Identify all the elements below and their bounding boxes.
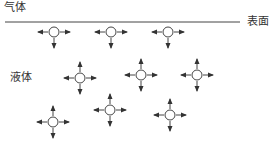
gas-label: 气体 xyxy=(4,2,26,14)
molecule-circle xyxy=(163,27,173,37)
molecule-circle xyxy=(165,110,175,120)
molecule-circle xyxy=(48,117,58,127)
molecule-circle xyxy=(105,105,115,115)
molecule-surface xyxy=(38,27,70,48)
molecule-bulk xyxy=(37,106,69,138)
molecule-bulk xyxy=(125,59,157,91)
molecule-circle xyxy=(49,27,59,37)
molecule-bulk xyxy=(154,99,186,131)
molecule-circle xyxy=(106,27,116,37)
molecule-surface xyxy=(152,27,184,48)
liquid-label: 液体 xyxy=(10,72,32,84)
molecule-surface xyxy=(95,27,127,48)
molecule-circle xyxy=(136,70,146,80)
surface-label: 表面 xyxy=(247,16,269,28)
molecule-circle xyxy=(192,70,202,80)
molecule-circle xyxy=(75,73,85,83)
molecule-bulk xyxy=(181,59,213,91)
molecule-bulk xyxy=(94,94,126,126)
molecules-group xyxy=(37,27,213,138)
molecule-bulk xyxy=(64,62,96,94)
surface-tension-diagram xyxy=(0,0,272,148)
